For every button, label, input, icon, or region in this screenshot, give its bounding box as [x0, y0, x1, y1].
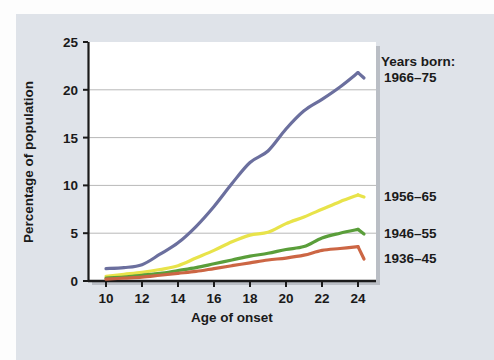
series-label-1936-45: 1936–45 — [384, 251, 437, 266]
x-tick-label-10: 10 — [98, 291, 113, 306]
x-tick-label-18: 18 — [242, 291, 258, 306]
y-tick-label-10: 10 — [63, 178, 78, 193]
x-tick-label-16: 16 — [206, 291, 222, 306]
x-tick-label-22: 22 — [314, 291, 329, 306]
series-label-group: 1966–751956–651946–551936–45 — [384, 70, 437, 266]
y-tick-label-5: 5 — [70, 226, 78, 241]
y-tick-label-20: 20 — [63, 83, 78, 98]
chart-figure: 0510152025 1012141618202224 1966–751956–… — [0, 0, 494, 360]
legend-heading: Years born: — [381, 54, 455, 69]
x-tick-label-24: 24 — [350, 291, 366, 306]
series-label-1956-65: 1956–65 — [384, 189, 437, 204]
y-axis-title: Percentage of population — [21, 81, 36, 243]
x-tick-label-12: 12 — [134, 291, 149, 306]
line-chart: 0510152025 1012141618202224 1966–751956–… — [0, 0, 494, 360]
series-label-1946-55: 1946–55 — [384, 226, 437, 241]
y-tick-group: 0510152025 — [63, 35, 88, 289]
y-tick-label-25: 25 — [63, 35, 79, 50]
x-tick-label-20: 20 — [278, 291, 293, 306]
series-leader-1956-65 — [358, 195, 364, 197]
plot-background — [88, 42, 376, 281]
x-tick-label-14: 14 — [170, 291, 186, 306]
series-label-1966-75: 1966–75 — [384, 70, 437, 85]
y-tick-label-0: 0 — [70, 274, 78, 289]
x-axis-title: Age of onset — [191, 310, 273, 325]
y-tick-label-15: 15 — [63, 131, 79, 146]
